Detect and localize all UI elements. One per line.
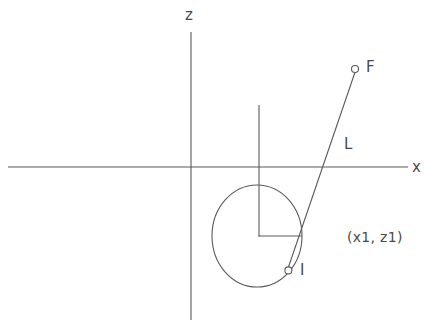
line-l-segment (288, 72, 355, 267)
coordinates-annotation: (x1, z1) (347, 230, 403, 244)
point-f-marker (352, 66, 359, 73)
point-f-label: F (366, 60, 375, 75)
x-axis-label: x (412, 160, 421, 175)
point-i-marker (285, 267, 292, 274)
diagram-canvas: z x F I L (x1, z1) (0, 0, 431, 331)
diagram-graphics (0, 0, 431, 331)
point-i-label: I (300, 263, 304, 278)
z-axis-label: z (185, 8, 193, 23)
line-l-label: L (344, 137, 352, 152)
